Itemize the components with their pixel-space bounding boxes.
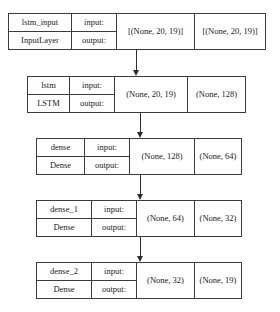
edge-arrow-lstm-input-to-lstm xyxy=(131,50,142,76)
output-label: output: xyxy=(70,95,114,113)
layer-name-column: dense_2 Dense xyxy=(37,263,92,298)
layer-class: InputLayer xyxy=(9,32,71,50)
layer-input-shape: (None, 64) xyxy=(147,214,184,223)
layer-name: lstm xyxy=(28,77,69,95)
input-label: input: xyxy=(72,14,116,32)
layer-io-column: input: output: xyxy=(92,201,137,236)
arrow-stem xyxy=(136,50,137,70)
layer-class: Dense xyxy=(37,157,84,175)
layer-output-shape-cell: [(None, 20, 19)] xyxy=(195,14,265,49)
edge-arrow-lstm-to-dense xyxy=(135,113,146,138)
layer-input-shape: (None, 20, 19) xyxy=(126,90,176,99)
layer-output-shape-cell: (None, 64) xyxy=(195,139,241,174)
output-label: output: xyxy=(92,281,136,299)
layer-class: LSTM xyxy=(28,95,69,113)
layer-output-shape-cell: (None, 19) xyxy=(195,263,241,298)
layer-input-shape-cell: (None, 64) xyxy=(137,201,195,236)
edge-arrow-dense-to-dense-1 xyxy=(135,175,146,200)
output-label: output: xyxy=(85,157,129,175)
layer-output-shape-cell: (None, 32) xyxy=(195,201,241,236)
layer-input-shape: (None, 32) xyxy=(147,276,184,285)
arrow-stem xyxy=(140,175,141,194)
layer-input-shape: (None, 128) xyxy=(141,152,182,161)
layer-name-column: lstm_input InputLayer xyxy=(9,14,72,49)
layer-block-dense[interactable]: dense Dense input: output: (None, 128) (… xyxy=(36,138,242,175)
layer-block-dense-2[interactable]: dense_2 Dense input: output: (None, 32) … xyxy=(36,262,242,299)
layer-input-shape: [(None, 20, 19)] xyxy=(128,27,183,36)
output-label: output: xyxy=(92,219,136,237)
layer-block-lstm[interactable]: lstm LSTM input: output: (None, 20, 19) … xyxy=(27,76,246,113)
layer-io-column: input: output: xyxy=(70,77,115,112)
layer-output-shape-cell: (None, 128) xyxy=(188,77,245,112)
layer-name: dense_1 xyxy=(37,201,91,219)
output-label: output: xyxy=(72,32,116,50)
input-label: input: xyxy=(85,139,129,157)
layer-name: dense_2 xyxy=(37,263,91,281)
layer-input-shape-cell: [(None, 20, 19)] xyxy=(117,14,195,49)
layer-name-column: dense_1 Dense xyxy=(37,201,92,236)
layer-name: lstm_input xyxy=(9,14,71,32)
layer-input-shape-cell: (None, 32) xyxy=(137,263,195,298)
layer-output-shape: (None, 32) xyxy=(200,214,237,223)
layer-io-column: input: output: xyxy=(72,14,117,49)
layer-input-shape-cell: (None, 128) xyxy=(130,139,195,174)
layer-name-column: dense Dense xyxy=(37,139,85,174)
layer-class: Dense xyxy=(37,281,91,299)
input-label: input: xyxy=(70,77,114,95)
edge-arrow-dense-1-to-dense-2 xyxy=(135,237,146,262)
layer-io-column: input: output: xyxy=(85,139,130,174)
layer-block-dense-1[interactable]: dense_1 Dense input: output: (None, 64) … xyxy=(36,200,242,237)
input-label: input: xyxy=(92,201,136,219)
arrow-stem xyxy=(140,237,141,256)
layer-class: Dense xyxy=(37,219,91,237)
layer-name: dense xyxy=(37,139,84,157)
layer-output-shape: (None, 64) xyxy=(200,152,237,161)
model-architecture-diagram: lstm_input InputLayer input: output: [(N… xyxy=(0,0,280,312)
layer-output-shape: [(None, 20, 19)] xyxy=(202,27,257,36)
arrow-stem xyxy=(140,113,141,132)
layer-name-column: lstm LSTM xyxy=(28,77,70,112)
layer-input-shape-cell: (None, 20, 19) xyxy=(115,77,188,112)
layer-output-shape: (None, 19) xyxy=(200,276,237,285)
layer-output-shape: (None, 128) xyxy=(196,90,237,99)
layer-io-column: input: output: xyxy=(92,263,137,298)
layer-block-lstm-input[interactable]: lstm_input InputLayer input: output: [(N… xyxy=(8,13,266,50)
input-label: input: xyxy=(92,263,136,281)
